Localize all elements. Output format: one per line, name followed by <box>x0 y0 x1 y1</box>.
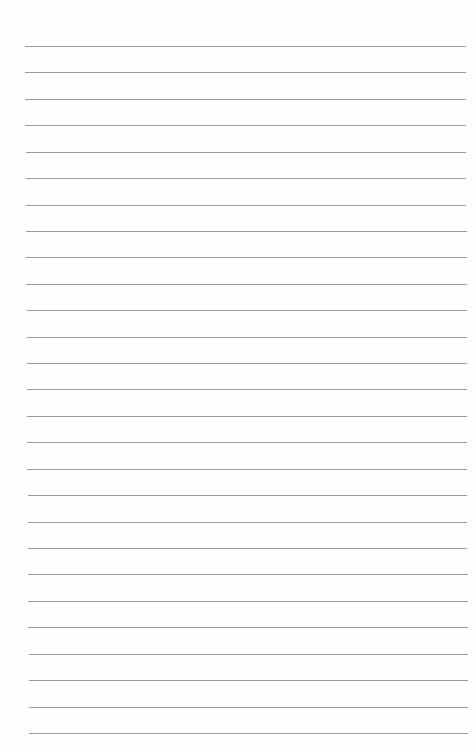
ruled-line <box>27 337 467 338</box>
ruled-line <box>26 178 467 179</box>
ruled-line <box>26 152 467 153</box>
ruled-line <box>27 442 467 443</box>
ruled-line <box>29 707 468 708</box>
ruled-line <box>27 389 467 390</box>
ruled-line <box>25 99 466 100</box>
ruled-line <box>27 363 467 364</box>
ruled-line <box>26 257 466 258</box>
ruled-line <box>29 654 468 655</box>
ruled-line <box>25 125 466 126</box>
ruled-line <box>26 231 466 232</box>
ruled-line <box>28 522 468 523</box>
ruled-line <box>28 548 468 549</box>
ruled-line <box>29 680 468 681</box>
ruled-line <box>28 601 467 602</box>
ruled-line <box>26 284 466 285</box>
ruled-line <box>28 495 468 496</box>
ruled-line <box>27 469 467 470</box>
ruled-line <box>25 46 466 47</box>
ruled-line <box>28 574 467 575</box>
lined-paper-page <box>0 0 476 749</box>
ruled-line <box>27 416 467 417</box>
ruled-line <box>26 205 467 206</box>
ruled-line <box>25 72 466 73</box>
ruled-line <box>27 310 467 311</box>
ruled-line <box>28 627 467 628</box>
ruled-line <box>29 733 468 734</box>
